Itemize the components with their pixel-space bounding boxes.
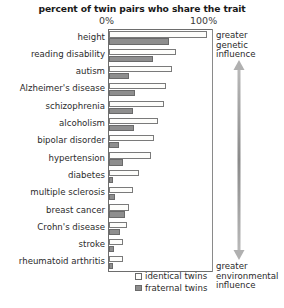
bar-identical [109,31,207,37]
bar-group [109,134,212,150]
trait-label: reading disability [31,49,105,60]
bar-fraternal [109,56,153,62]
bar-group [109,82,212,98]
legend-label-fraternal: fraternal twins [145,283,207,293]
trait-label: Crohn's disease [37,222,105,233]
bar-identical [109,187,133,193]
trait-label: stroke [79,239,105,250]
bar-fraternal [109,211,125,217]
trait-label: hypertension [49,153,105,164]
chart-legend: identical twins fraternal twins [135,271,215,294]
annotation-genetic-line3: influence [216,50,255,60]
bar-identical [109,222,127,228]
trait-label: breast cancer [46,205,105,216]
bar-group [109,117,212,133]
bar-group [109,65,212,81]
bar-identical [109,118,158,124]
legend-item-identical-twins: identical twins [135,271,215,283]
trait-label: height [78,32,105,43]
bar-group [109,30,212,46]
bar-identical [109,170,139,176]
bar-identical [109,49,176,55]
x-axis-tick-min: 0% [99,15,114,26]
annotation-environmental-line3: influence [216,281,278,291]
legend-label-identical: identical twins [145,271,207,281]
trait-label: diabetes [68,170,105,181]
bar-group [109,151,212,167]
trait-label: Alzheimer's disease [20,83,105,94]
bar-identical [109,66,172,72]
bar-group [109,99,212,115]
bar-fraternal [109,142,119,148]
bar-identical [109,135,154,141]
trait-label: multiple sclerosis [30,187,105,198]
bar-fraternal [109,229,120,235]
annotation-greater-genetic-influence: greater genetic influence [216,31,255,60]
twin-concordance-chart: percent of twin pairs who share the trai… [0,0,284,308]
bar-fraternal [109,159,123,165]
bar-group [109,47,212,63]
bar-group [109,255,212,271]
bar-fraternal [109,108,133,114]
bar-fraternal [109,246,114,252]
bar-identical [109,83,166,89]
bar-fraternal [109,38,169,44]
trait-label: autism [76,66,105,77]
bar-group [109,220,212,236]
bar-fraternal [109,177,113,183]
legend-item-fraternal-twins: fraternal twins [135,283,215,295]
bar-fraternal [109,90,135,96]
chart-title: percent of twin pairs who share the trai… [0,3,284,14]
legend-swatch-fraternal-icon [135,285,142,292]
bar-fraternal [109,194,115,200]
bar-group [109,238,212,254]
x-axis-tick-max: 100% [190,15,217,26]
bar-identical [109,204,129,210]
bar-identical [109,256,123,262]
bar-fraternal [109,73,129,79]
bar-group [109,203,212,219]
bar-group [109,186,212,202]
gradient-arrow-icon [232,60,246,260]
legend-swatch-identical-icon [135,273,142,280]
bar-identical [109,152,151,158]
bar-identical [109,239,123,245]
bar-fraternal [109,263,113,269]
bar-fraternal [109,125,134,131]
trait-label: bipolar disorder [37,135,105,146]
bar-identical [109,101,164,107]
bar-group [109,168,212,184]
trait-label: rheumatoid arthritis [19,256,105,267]
trait-label: alcoholism [59,118,105,129]
trait-label: schizophrenia [46,101,105,112]
annotation-greater-environmental-influence: greater environmental influence [216,262,278,291]
